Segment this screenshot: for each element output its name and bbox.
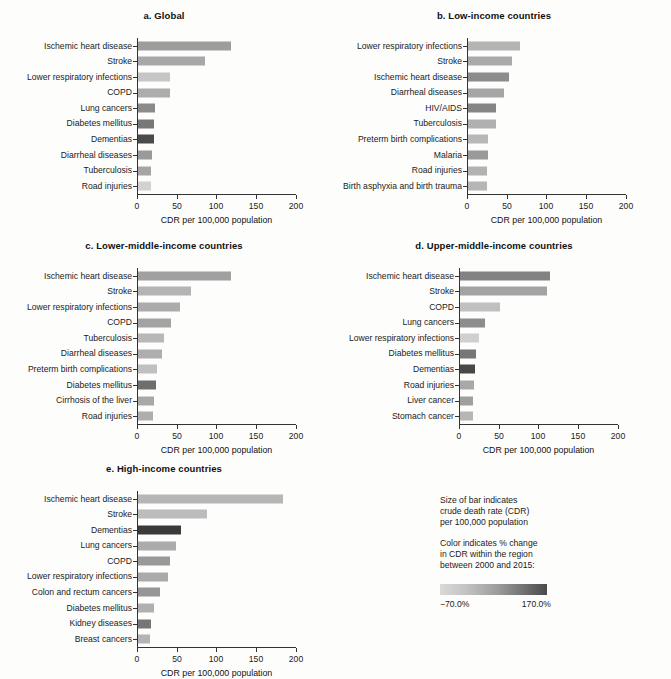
bar-row: Tuberculosis [334,116,654,132]
bar-row: Ischemic heart disease [4,38,324,54]
bar-row: Stroke [4,284,324,300]
bar-track [137,69,324,85]
bar-track [137,116,324,132]
bar [137,72,170,81]
bar-category-label: Liver cancer [334,396,459,405]
bar [467,72,509,81]
bar-category-label: Diabetes mellitus [4,119,137,128]
panel-d-rows: Ischemic heart diseaseStrokeCOPDLung can… [334,268,654,424]
bar-category-label: Lung cancers [4,541,137,550]
panel-c-xticklabel-150: 150 [236,431,276,441]
bar-track [459,346,654,362]
bar-category-label: Preterm birth complications [334,135,467,144]
bar [137,525,181,534]
bar-category-label: Breast cancers [4,635,137,644]
panel-e-rows: Ischemic heart diseaseStrokeDementiasLun… [4,491,324,647]
bar-track [137,38,324,54]
panel-e-plot: Ischemic heart diseaseStrokeDementiasLun… [4,481,324,679]
bar-category-label: Stroke [4,57,137,66]
bar-row: Lung cancers [334,315,654,331]
bar-row: Preterm birth complications [4,362,324,378]
bar-row: Lung cancers [4,100,324,116]
bar [467,150,488,159]
bar-category-label: Malaria [334,151,467,160]
bar-track [137,585,324,601]
panel-b-xtick-150 [586,195,587,199]
panel-d-xtick-50 [499,425,500,429]
legend-scale-min-label: −70.0% [440,599,469,609]
bar-track [137,163,324,179]
bar [137,271,231,280]
bar-category-label: Stroke [334,287,459,296]
bar [137,494,283,503]
bar-track [459,284,654,300]
bar [459,271,550,280]
bar-category-label: Tuberculosis [334,119,467,128]
bar-category-label: Lower respiratory infections [334,334,459,343]
bar [137,318,171,327]
legend-color-gradient [440,584,547,595]
panel-d-xtick-100 [538,425,539,429]
bar [137,412,153,421]
bar-category-label: Lung cancers [4,104,137,113]
panel-c-xticklabel-0: 0 [117,431,157,441]
bar-category-label: Ischemic heart disease [334,73,467,82]
bar-track [137,393,324,409]
bar [467,104,496,113]
bar-category-label: Stroke [4,287,137,296]
bar [137,302,180,311]
bar-row: Lower respiratory infections [334,330,654,346]
panel-b-xticklabel-200: 200 [606,201,646,211]
bar-track [137,315,324,331]
panel-e-xtick-200 [296,648,297,652]
panel-b-xtick-100 [546,195,547,199]
panel-a-xtick-100 [216,195,217,199]
legend-size-note-line2: crude death rate (CDR) [440,506,640,517]
bar-row: Cirrhosis of the liver [4,393,324,409]
bar [467,57,512,66]
bar-category-label: Ischemic heart disease [4,42,137,51]
bar-row: Road injuries [334,163,654,179]
legend-color-note-line3: between 2000 and 2015: [440,560,640,571]
bar [137,510,207,519]
bar-category-label: Lower respiratory infections [4,303,137,312]
bar-track [137,346,324,362]
bar-track [137,147,324,163]
bar-row: Lung cancers [4,538,324,554]
bar-row: Ischemic heart disease [4,491,324,507]
bar-track [467,100,654,116]
panel-e: e. High-income countries Ischemic heart … [4,463,324,678]
bar-track [137,569,324,585]
panel-b-xticklabel-100: 100 [526,201,566,211]
bar-track [467,116,654,132]
bar-row: Liver cancer [334,393,654,409]
panel-e-xtick-100 [216,648,217,652]
bar-row: Ischemic heart disease [334,268,654,284]
bar-track [459,377,654,393]
panel-a-xticklabel-200: 200 [276,201,316,211]
panel-a-xtick-0 [137,195,138,199]
bar [459,287,547,296]
panel-d-xtick-200 [618,425,619,429]
bar-track [467,132,654,148]
panel-b-plot: Lower respiratory infectionsStrokeIschem… [334,28,660,228]
panel-c-xtick-150 [256,425,257,429]
panel-a-xtick-50 [177,195,178,199]
panel-e-xticklabel-150: 150 [236,654,276,664]
bar [137,635,150,644]
panel-c-title: c. Lower-middle-income countries [14,240,314,251]
bar-row: Colon and rectum cancers [4,585,324,601]
bar [137,182,151,191]
bar-category-label: Lower respiratory infections [4,73,137,82]
panel-d-title: d. Upper-middle-income countries [344,240,644,251]
panel-d: d. Upper-middle-income countries Ischemi… [334,240,660,455]
bar [137,572,168,581]
bar [459,396,473,405]
bar-track [137,600,324,616]
bar-track [459,299,654,315]
bar-row: Diabetes mellitus [4,600,324,616]
bar-track [137,377,324,393]
panel-c-y-axis [137,268,138,424]
bar [459,318,485,327]
legend-color-note-line1: Color indicates % change [440,538,640,549]
